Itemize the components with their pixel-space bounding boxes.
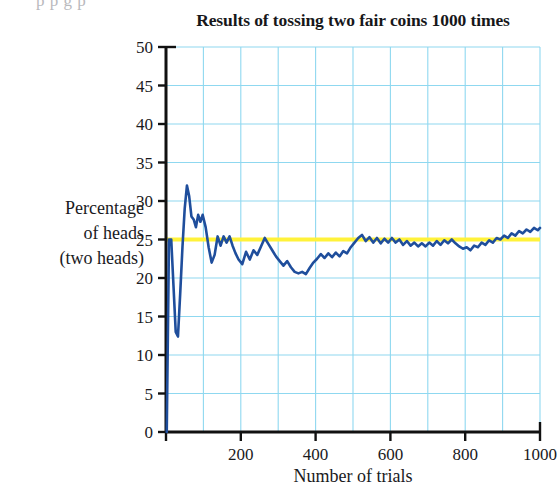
plot-area: 05101520253035404550 2004006008001000 — [0, 0, 560, 499]
y-tick-label: 10 — [136, 346, 153, 365]
y-tick-label: 50 — [136, 38, 153, 57]
y-tick-label: 25 — [136, 231, 153, 250]
y-tick-label: 35 — [136, 154, 153, 173]
x-axis-title: Number of trials — [166, 466, 540, 487]
x-axis-tick-labels: 2004006008001000 — [228, 445, 557, 464]
x-tick-label: 1000 — [523, 445, 557, 464]
y-axis-tick-labels: 05101520253035404550 — [136, 38, 153, 442]
y-tick-label: 40 — [136, 115, 153, 134]
y-tick-label: 20 — [136, 269, 153, 288]
x-tick-label: 200 — [228, 445, 254, 464]
y-tick-label: 5 — [145, 385, 154, 404]
y-tick-label: 0 — [145, 423, 154, 442]
x-tick-label: 600 — [378, 445, 404, 464]
y-tick-label: 30 — [136, 192, 153, 211]
chart-figure: p p g p Results of tossing two fair coin… — [0, 0, 560, 499]
y-tick-label: 45 — [136, 77, 153, 96]
y-tick-label: 15 — [136, 308, 153, 327]
x-tick-label: 800 — [452, 445, 478, 464]
x-tick-label: 400 — [303, 445, 329, 464]
